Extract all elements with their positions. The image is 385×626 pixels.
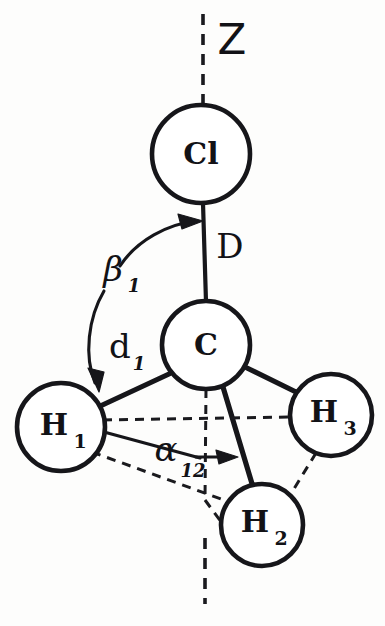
bond-c-h2 (223, 387, 253, 487)
angle-alpha-arrowhead (216, 450, 238, 464)
atoms-group: Cl C H 1 H 2 H 3 (17, 105, 372, 566)
atom-h1[interactable]: H 1 (17, 383, 105, 471)
atom-h3-subscript: 3 (343, 417, 356, 439)
atom-h1-label: H (40, 407, 68, 442)
molecular-geometry-diagram: Z (0, 0, 385, 626)
atom-h2-label: H (241, 504, 269, 539)
bond-c-cl (203, 203, 206, 302)
atom-h3-label: H (310, 394, 338, 429)
angle-alpha-subscript: 12 (180, 460, 205, 481)
dashed-edge-h3-h2 (292, 453, 316, 492)
atom-c-label: C (194, 327, 218, 362)
bond-c-h3 (247, 368, 296, 392)
z-axis-label: Z (218, 15, 247, 64)
angle-beta-arrowhead-bottom (88, 368, 104, 392)
dashed-edge-h1-h3 (103, 417, 291, 420)
atom-h2[interactable]: H 2 (221, 484, 303, 566)
angle-beta-subscript: 1 (128, 275, 141, 296)
bond-length-h1-subscript: 1 (133, 353, 146, 374)
bond-length-h1-label: d (109, 326, 131, 366)
bond-length-cl-label: D (216, 226, 243, 266)
atom-h2-subscript: 2 (274, 527, 287, 549)
angle-alpha-guide (104, 432, 200, 458)
atom-cl-label: Cl (183, 136, 218, 171)
angle-beta-label: β (101, 249, 123, 289)
angle-alpha-group: α 12 (104, 429, 238, 481)
atom-h3[interactable]: H 3 (290, 374, 372, 456)
atom-c[interactable]: C (162, 301, 250, 389)
figure-canvas: Z (0, 0, 385, 626)
angle-alpha-label: α (155, 429, 178, 469)
angle-beta-arrowhead-top (178, 214, 203, 229)
bond-c-h1 (96, 374, 169, 408)
atom-h1-subscript: 1 (73, 430, 86, 452)
atom-cl[interactable]: Cl (152, 105, 250, 203)
dashed-edge-c-axis (205, 389, 206, 500)
